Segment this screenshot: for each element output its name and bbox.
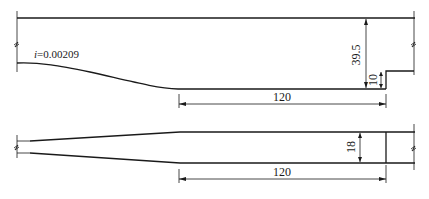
dimension-length-profile: 120 [179,90,386,108]
step [386,71,414,89]
plan-view: 18 120 [14,124,416,183]
plan-left-break-icon [14,145,19,150]
depth-label: 39.5 [349,45,363,66]
plan-lower-edge [30,153,415,163]
slope-label: i=0.00209 [34,48,80,60]
channel-bed [17,63,386,89]
left-break-icon [14,42,19,47]
step-height-label: 10 [366,74,380,86]
plan-right-break-icon [411,146,416,151]
right-break-icon [411,42,416,47]
width-label: 18 [344,141,358,153]
dimension-length-plan: 120 [179,165,386,183]
plan-upper-edge [30,132,415,141]
drawing-canvas: i=0.00209 39.5 10 120 [0,0,429,199]
dimension-step-height: 10 [366,72,383,88]
dimension-width: 18 [344,133,362,162]
profile-view: i=0.00209 39.5 10 120 [14,11,416,108]
length-label-plan: 120 [273,165,291,179]
length-label-profile: 120 [273,90,291,104]
